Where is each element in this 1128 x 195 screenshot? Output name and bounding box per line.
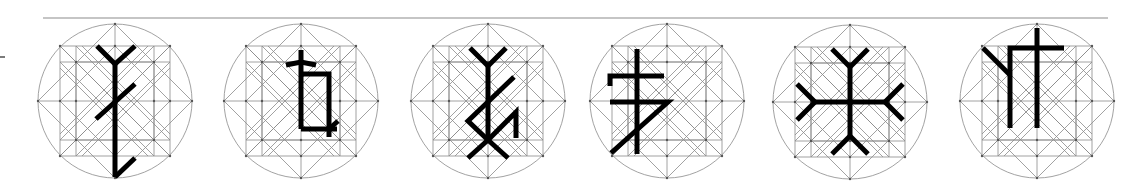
grid-node	[611, 45, 613, 47]
grid-node	[261, 61, 263, 63]
grid-node	[849, 156, 851, 158]
grid-node	[926, 101, 928, 103]
grid-node	[410, 100, 412, 102]
grid-node	[245, 45, 247, 47]
grid-node	[223, 100, 225, 102]
glyph-1	[37, 23, 193, 179]
glyph-2	[223, 23, 379, 179]
grid-node	[666, 155, 668, 157]
grid-node	[849, 24, 851, 26]
grid-node	[888, 62, 890, 64]
grid-node	[114, 23, 116, 25]
grid-node	[169, 100, 171, 102]
grid-node	[904, 46, 906, 48]
grid-node	[1091, 155, 1093, 157]
grid-node	[245, 100, 247, 102]
grid-node	[169, 45, 171, 47]
grid-node	[997, 139, 999, 141]
grid-node	[721, 100, 723, 102]
grid-node	[355, 45, 357, 47]
grid-node	[37, 100, 39, 102]
grid-node	[261, 139, 263, 141]
grid-node	[300, 155, 302, 157]
grid-node	[666, 61, 668, 63]
grid-node	[904, 156, 906, 158]
grid-node	[153, 61, 155, 63]
grid-node	[981, 100, 983, 102]
grid-node	[191, 100, 193, 102]
glyph-row	[37, 23, 1115, 180]
grid-node	[589, 100, 591, 102]
grid-node	[666, 139, 668, 141]
grid-node	[448, 100, 450, 102]
grid-node	[114, 45, 116, 47]
rune-stroke	[983, 48, 1010, 75]
grid-node	[705, 139, 707, 141]
grid-node	[448, 61, 450, 63]
grid-node	[542, 155, 544, 157]
grid-node	[487, 155, 489, 157]
grid-node	[794, 46, 796, 48]
grid-node	[355, 100, 357, 102]
grid-node	[849, 178, 851, 180]
grid-node	[339, 139, 341, 141]
grid-node	[1036, 139, 1038, 141]
grid-node	[526, 100, 528, 102]
grid-node	[1036, 177, 1038, 179]
grid-node	[300, 177, 302, 179]
grid-node	[904, 101, 906, 103]
grid-node	[1113, 100, 1115, 102]
grid-node	[526, 61, 528, 63]
grid-node	[997, 100, 999, 102]
grid-node	[981, 45, 983, 47]
grid-node	[377, 100, 379, 102]
grid-node	[300, 45, 302, 47]
grid-node	[743, 100, 745, 102]
grid-node	[75, 139, 77, 141]
glyph-4	[589, 23, 745, 179]
grid-node	[666, 177, 668, 179]
grid-node	[355, 155, 357, 157]
grid-node	[300, 23, 302, 25]
grid-node	[1091, 100, 1093, 102]
grid-node	[611, 155, 613, 157]
glyph-3	[410, 23, 566, 179]
glyph-5	[772, 24, 928, 180]
grid-node	[487, 23, 489, 25]
grid-node	[432, 45, 434, 47]
grid-node	[59, 100, 61, 102]
grid-node	[849, 46, 851, 48]
grid-node	[339, 100, 341, 102]
grid-node	[705, 61, 707, 63]
rune-stroke	[488, 112, 516, 140]
grid-node	[1091, 45, 1093, 47]
grid-node	[432, 100, 434, 102]
grid-node	[981, 155, 983, 157]
grid-node	[487, 177, 489, 179]
rune-strokes	[610, 49, 668, 154]
grid-node	[705, 100, 707, 102]
grid-node	[448, 139, 450, 141]
rune-stroke	[97, 46, 135, 64]
grid-node	[721, 45, 723, 47]
grid-node	[810, 62, 812, 64]
grid-node	[666, 23, 668, 25]
rune-stroke	[468, 77, 514, 140]
grid-node	[542, 100, 544, 102]
grid-node	[153, 100, 155, 102]
grid-node	[75, 100, 77, 102]
grid-node	[300, 139, 302, 141]
grid-node	[1075, 61, 1077, 63]
grid-node	[339, 61, 341, 63]
grid-node	[59, 155, 61, 157]
grid-node	[75, 61, 77, 63]
grid-node	[1036, 23, 1038, 25]
grid-node	[542, 45, 544, 47]
grid-node	[666, 45, 668, 47]
rune-strokes	[983, 28, 1064, 128]
grid-node	[564, 100, 566, 102]
grid-node	[432, 155, 434, 157]
grid-node	[810, 140, 812, 142]
grid-node	[888, 140, 890, 142]
grid-node	[1075, 100, 1077, 102]
